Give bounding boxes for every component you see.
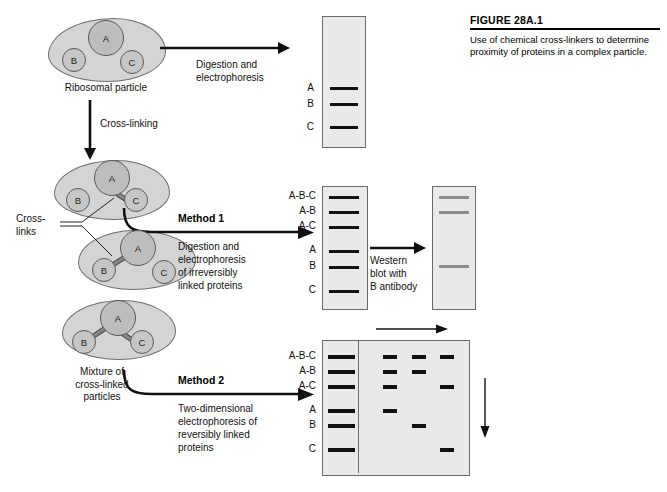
native-gel-band-a xyxy=(330,87,358,90)
protein-circle-b: B xyxy=(66,188,90,212)
twod-spot-ac-col1 xyxy=(383,385,397,389)
protein-circle-c: C xyxy=(152,260,176,284)
method2-heading: Method 2 xyxy=(178,374,224,386)
protein-label-b: B xyxy=(101,265,107,276)
digestion-line-2: electrophoresis xyxy=(196,71,264,84)
native-gel-label-c: C xyxy=(286,121,314,132)
twod-spot-a-col1 xyxy=(383,409,397,413)
western-blot-label: Western blot with B antibody xyxy=(370,254,417,293)
figure-number: FIGURE 28A.1 xyxy=(470,14,660,26)
method1-band-ac xyxy=(329,226,359,229)
native-gel-label-b: B xyxy=(286,98,314,109)
protein-label-c: C xyxy=(129,57,136,68)
western-band-b xyxy=(439,265,469,268)
protein-circle-b: B xyxy=(62,48,86,72)
native-gel-band-c xyxy=(330,126,358,129)
twod-second-dimension-arrow xyxy=(376,322,448,336)
protein-circle-c: C xyxy=(124,188,148,212)
twod-spot-ab-col1 xyxy=(383,370,397,374)
western-line-2: blot with xyxy=(370,267,417,280)
native-gel-label-a: A xyxy=(286,82,314,93)
protein-label-a: A xyxy=(135,243,141,254)
method1-band-c xyxy=(329,290,359,293)
figure-caption-block: FIGURE 28A.1 Use of chemical cross-linke… xyxy=(470,14,660,59)
protein-circle-c: C xyxy=(120,50,144,74)
method1-label-abc: A-B-C xyxy=(272,190,316,201)
twod-first-dim-band-ac xyxy=(328,385,355,389)
protein-label-b: B xyxy=(81,337,87,348)
twod-first-dim-band-c xyxy=(328,448,355,452)
method1-label-c: C xyxy=(272,284,316,295)
twod-spot-c-col3 xyxy=(440,448,454,452)
twod-label-a: A xyxy=(272,404,316,415)
protein-circle-b: B xyxy=(72,330,96,354)
twod-first-dim-band-abc xyxy=(328,355,355,359)
native-gel-band-b xyxy=(330,103,358,106)
method1-heading: Method 1 xyxy=(178,212,224,224)
method2-line-3: reversibly linked xyxy=(178,428,257,441)
native-particle-label: Ribosomal particle xyxy=(26,82,186,95)
method1-description: Digestion and electrophoresis of irrever… xyxy=(178,240,246,292)
protein-label-b: B xyxy=(71,55,77,66)
twod-first-dim-band-ab xyxy=(328,370,355,374)
method2-line-1: Two-dimensional xyxy=(178,402,257,415)
protein-circle-a: A xyxy=(88,20,124,56)
protein-circle-c: C xyxy=(130,330,154,354)
method1-band-b xyxy=(329,266,359,269)
method1-label-b: B xyxy=(272,260,316,271)
western-blot-gel xyxy=(432,186,476,310)
protein-label-c: C xyxy=(133,195,140,206)
twod-spot-abc-col2 xyxy=(412,355,426,359)
twod-label-b: B xyxy=(272,419,316,430)
twod-label-ac: A-C xyxy=(272,380,316,391)
method1-label-a: A xyxy=(272,244,316,255)
protein-label-a: A xyxy=(103,33,109,44)
method1-band-ab xyxy=(329,211,359,214)
crosslinks-label: Cross- links xyxy=(16,212,45,238)
protein-circle-a: A xyxy=(100,300,136,336)
method2-line-2: electrophoresis of xyxy=(178,415,257,428)
protein-label-a: A xyxy=(109,173,115,184)
western-band-abc xyxy=(439,196,469,199)
twod-label-c: C xyxy=(272,443,316,454)
twod-spot-abc-col1 xyxy=(383,355,397,359)
crosslinking-arrow xyxy=(82,100,98,160)
method1-line-1: Digestion and xyxy=(178,240,246,253)
method1-band-abc xyxy=(329,196,359,199)
crosslinks-label-line-1: Cross- xyxy=(16,212,45,225)
digestion-arrow-label: Digestion and electrophoresis xyxy=(196,58,264,84)
protein-circle-a: A xyxy=(94,160,130,196)
twod-spot-ab-col2 xyxy=(412,370,426,374)
twod-spot-abc-col3 xyxy=(440,355,454,359)
method1-line-2: electrophoresis xyxy=(178,253,246,266)
method1-band-a xyxy=(329,250,359,253)
digestion-line-1: Digestion and xyxy=(196,58,264,71)
western-line-1: Western xyxy=(370,254,417,267)
protein-circle-a: A xyxy=(120,230,156,266)
method1-label-ab: A-B xyxy=(272,205,316,216)
method1-line-4: linked proteins xyxy=(178,279,246,292)
method2-line-4: proteins xyxy=(178,441,257,454)
method2-description: Two-dimensional electrophoresis of rever… xyxy=(178,402,257,454)
method1-line-3: of irreversibly xyxy=(178,266,246,279)
caption-divider xyxy=(470,28,660,30)
twod-spot-b-col2 xyxy=(412,424,426,428)
protein-label-a: A xyxy=(115,313,121,324)
western-line-3: B antibody xyxy=(370,280,417,293)
twod-first-dim-band-a xyxy=(328,409,355,413)
method1-label-ac: A-C xyxy=(272,220,316,231)
western-band-ab xyxy=(439,211,469,214)
twod-label-abc: A-B-C xyxy=(272,350,316,361)
twod-label-ab: A-B xyxy=(272,365,316,376)
twod-first-dim-band-b xyxy=(328,424,355,428)
figure-canvas: FIGURE 28A.1 Use of chemical cross-linke… xyxy=(0,0,667,492)
crosslinked-particle-3: A B C xyxy=(56,298,186,370)
crosslinks-label-line-2: links xyxy=(16,225,45,238)
protein-label-b: B xyxy=(75,195,81,206)
two-dimensional-gel xyxy=(322,340,470,476)
twod-gel-lane-divider xyxy=(358,341,359,473)
twod-spot-ac-col3 xyxy=(440,385,454,389)
protein-circle-b: B xyxy=(92,258,116,282)
crosslinking-arrow-label: Cross-linking xyxy=(100,117,158,130)
digestion-arrow xyxy=(160,40,290,56)
